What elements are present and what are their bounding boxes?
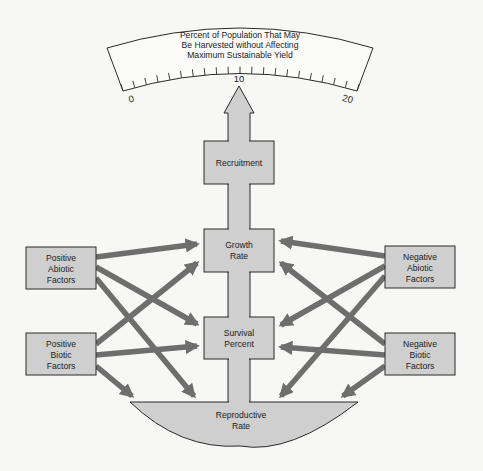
- node-growth-rate: Growth Rate: [204, 226, 274, 276]
- negative-abiotic-label-2: Abiotic: [407, 263, 433, 273]
- arrow-pos-biotic-to-survival: [96, 346, 197, 355]
- node-survival-percent: Survival Percent: [204, 314, 274, 363]
- node-recruitment: Recruitment: [204, 138, 274, 188]
- gauge-label-20: 20: [341, 92, 354, 105]
- growth-rate-label-1: Growth: [225, 240, 253, 250]
- positive-abiotic-label-2: Abiotic: [48, 264, 74, 274]
- negative-abiotic-label-3: Factors: [406, 274, 435, 284]
- node-positive-biotic: Positive Biotic Factors: [26, 333, 96, 375]
- positive-biotic-label-1: Positive: [46, 339, 76, 349]
- reproductive-rate-label-1: Reproductive: [216, 410, 267, 420]
- arrow-neg-abiotic-to-growth: [281, 241, 385, 256]
- recruitment-label: Recruitment: [216, 158, 263, 168]
- survival-percent-label-1: Survival: [224, 328, 255, 338]
- positive-biotic-label-2: Biotic: [50, 350, 72, 360]
- gauge-title-line-1: Percent of Population That May: [180, 30, 301, 40]
- positive-biotic-label-3: Factors: [47, 361, 76, 371]
- positive-abiotic-label-3: Factors: [47, 275, 76, 285]
- gauge-title-line-2: Be Harvested without Affecting: [182, 40, 299, 50]
- negative-abiotic-label-1: Negative: [403, 252, 437, 262]
- reproductive-rate-label-2: Rate: [232, 421, 250, 431]
- node-reproductive-rate: Reproductive Rate: [130, 396, 358, 447]
- node-negative-biotic: Negative Biotic Factors: [385, 333, 455, 375]
- arrow-pos-abiotic-to-growth: [96, 244, 197, 257]
- diagram-canvas: Percent of Population That May Be Harves…: [0, 0, 483, 471]
- gauge-pointer-arrow: [224, 86, 254, 142]
- node-positive-abiotic: Positive Abiotic Factors: [26, 247, 96, 289]
- gauge-title-line-3: Maximum Sustainable Yield: [187, 50, 293, 60]
- positive-abiotic-label-1: Positive: [46, 253, 76, 263]
- growth-rate-label-2: Rate: [230, 251, 248, 261]
- negative-biotic-label-2: Biotic: [409, 350, 431, 360]
- negative-biotic-label-3: Factors: [406, 361, 435, 371]
- gauge-tick: [204, 68, 205, 75]
- arrow-neg-biotic-to-survival: [281, 347, 385, 355]
- node-negative-abiotic: Negative Abiotic Factors: [385, 246, 455, 288]
- arrow-neg-biotic-to-reproductive: [343, 366, 385, 396]
- negative-biotic-label-1: Negative: [403, 339, 437, 349]
- gauge-tick: [275, 68, 276, 75]
- arrow-pos-biotic-to-reproductive: [96, 366, 132, 396]
- gauge-label-0: 0: [127, 93, 135, 105]
- gauge-label-10: 10: [234, 73, 245, 84]
- survival-percent-label-2: Percent: [224, 339, 254, 349]
